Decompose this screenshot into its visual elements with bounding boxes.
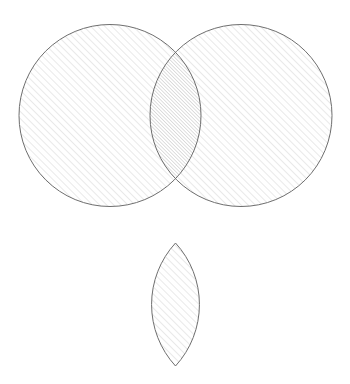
venn-circles-group — [19, 25, 332, 207]
figure-canvas — [0, 0, 350, 384]
venn-diagram-svg — [0, 0, 350, 384]
